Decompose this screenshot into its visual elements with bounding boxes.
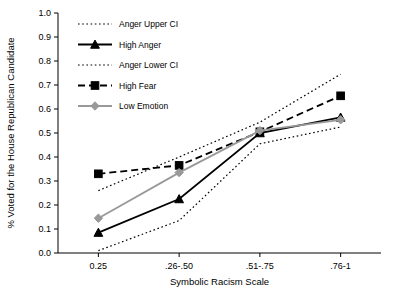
x-tick-label: 0.25 <box>90 261 108 271</box>
y-tick-label: 0.7 <box>38 80 51 90</box>
series-line <box>98 74 340 190</box>
y-tick-label: 0.0 <box>38 248 51 258</box>
series-line <box>98 127 340 251</box>
y-axis-title: % Voted for the House Republican Candida… <box>5 37 16 228</box>
y-tick-label: 0.3 <box>38 176 51 186</box>
data-point-marker <box>91 82 99 90</box>
y-tick-label: 0.2 <box>38 200 51 210</box>
y-tick-label: 1.0 <box>38 8 51 18</box>
y-tick-label: 0.4 <box>38 152 51 162</box>
data-point-marker <box>95 170 103 178</box>
y-tick-label: 0.5 <box>38 128 51 138</box>
legend-label: High Anger <box>119 40 161 50</box>
data-point-marker <box>337 92 345 100</box>
series-line <box>98 120 340 218</box>
data-point-marker <box>336 116 344 124</box>
y-tick-label: 0.8 <box>38 56 51 66</box>
x-tick-label: .26-.50 <box>165 261 193 271</box>
x-axis-title: Symbolic Racism Scale <box>170 276 269 287</box>
legend-label: Anger Upper CI <box>119 19 178 29</box>
series-line <box>98 117 340 232</box>
y-tick-label: 0.9 <box>38 32 51 42</box>
legend-label: High Fear <box>119 81 156 91</box>
legend-label: Anger Lower CI <box>119 60 178 70</box>
line-chart: 0.00.10.20.30.40.50.60.70.80.91.00.25.26… <box>0 0 394 292</box>
legend-label: Low Emotion <box>119 101 168 111</box>
x-tick-label: .76-1 <box>330 261 351 271</box>
data-point-marker <box>94 214 102 222</box>
x-tick-label: .51-.75 <box>246 261 274 271</box>
y-tick-label: 0.1 <box>38 224 51 234</box>
y-tick-label: 0.6 <box>38 104 51 114</box>
chart-container: 0.00.10.20.30.40.50.60.70.80.91.00.25.26… <box>0 0 394 292</box>
data-point-marker <box>91 102 99 110</box>
